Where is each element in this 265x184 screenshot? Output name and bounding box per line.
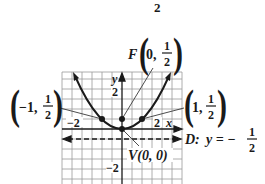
svg-text:2: 2 xyxy=(208,108,214,122)
svg-text:−1,: −1, xyxy=(19,100,37,115)
svg-text:): ) xyxy=(173,29,183,76)
svg-text:1: 1 xyxy=(45,92,51,106)
curve-arrow-left-icon xyxy=(73,72,79,81)
curve-arrow-right-icon xyxy=(165,72,171,81)
directrix-label: D: y = − 1 2 xyxy=(184,125,257,155)
tick-x-2: 2 xyxy=(154,116,160,130)
svg-text:1: 1 xyxy=(208,92,214,106)
parabola-diagram: 2 −2 xyxy=(0,0,265,184)
svg-text:y = −: y = − xyxy=(204,132,236,147)
vertex-label: V(0, 0) xyxy=(128,148,168,164)
tick-y-2: 2 xyxy=(112,85,118,99)
svg-text:0,: 0, xyxy=(146,47,157,62)
svg-text:D:: D: xyxy=(184,132,200,147)
top-fraction-fragment: 2 xyxy=(154,0,161,15)
svg-text:): ) xyxy=(217,81,227,128)
svg-text:1: 1 xyxy=(164,39,170,53)
point-left xyxy=(99,116,105,122)
svg-text:1: 1 xyxy=(249,125,255,139)
arrow-right-icon xyxy=(173,136,181,142)
point-right-label: ( 1, 1 2 ) xyxy=(184,81,227,128)
tick-x-neg2: −2 xyxy=(67,116,80,130)
point-left-label: ( −1, 1 2 ) xyxy=(10,81,63,128)
x-axis-label: x xyxy=(165,116,172,130)
svg-text:F: F xyxy=(127,47,138,62)
svg-text:): ) xyxy=(53,81,63,128)
focus-label: F ( 0, 1 2 ) xyxy=(127,29,183,76)
arrow-left-icon xyxy=(63,136,71,142)
y-axis-arrow-icon xyxy=(119,73,125,81)
y-axis-label: y xyxy=(110,72,118,86)
point-right xyxy=(139,116,145,122)
vertex-point xyxy=(119,126,125,132)
tick-y-neg2: −2 xyxy=(106,161,119,175)
focus-point xyxy=(119,116,125,122)
svg-text:2: 2 xyxy=(249,141,255,155)
x-axis-arrow-icon xyxy=(174,126,182,132)
svg-text:2: 2 xyxy=(45,108,51,122)
svg-text:2: 2 xyxy=(164,55,170,69)
svg-text:1,: 1, xyxy=(192,100,203,115)
